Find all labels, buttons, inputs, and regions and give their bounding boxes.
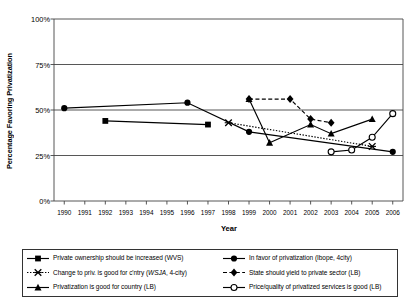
x-axis-tick-label: 1998: [221, 209, 235, 216]
series-group: [246, 95, 335, 127]
series-group: [102, 118, 210, 127]
chart-legend: Private ownership should be increased (W…: [22, 249, 398, 297]
series-group: [328, 111, 396, 155]
x-axis-tick-label: 1994: [139, 209, 153, 216]
series-marker: [231, 285, 237, 291]
series-marker: [369, 134, 375, 140]
series-marker: [246, 129, 252, 135]
series-line: [331, 114, 393, 152]
series-marker: [184, 100, 190, 106]
legend-item: State should yield to private sector (LB…: [221, 267, 401, 278]
x-axis-tick-label: 1992: [98, 209, 112, 216]
legend-label: Privatization is good for country (LB): [53, 284, 156, 291]
series-line: [105, 121, 208, 125]
legend-label: State should yield to private sector (LB…: [249, 270, 360, 277]
legend-label: Price/quality of privatized services is …: [249, 284, 381, 291]
series-marker: [307, 121, 314, 128]
series-marker: [369, 115, 376, 122]
legend-symbol-filled-diamond-icon: [221, 267, 247, 278]
privatization-line-chart: Percentage Favoring Privatization 0%25%5…: [0, 0, 420, 304]
legend-symbol-filled-triangle-icon: [25, 282, 51, 293]
legend-label: Private ownership should be increased (W…: [53, 255, 183, 262]
series-group: [225, 119, 376, 149]
x-axis-tick-label: 2005: [365, 209, 379, 216]
legend-item: In favor of privatization (Ibope, 4city): [221, 253, 401, 264]
x-axis-tick-label: 2001: [283, 209, 297, 216]
series-marker: [61, 105, 67, 111]
series-marker: [390, 111, 396, 117]
y-axis-tick-label: 100%: [31, 15, 50, 24]
y-axis-tick-label: 0%: [39, 197, 50, 206]
legend-label: In favor of privatization (Ibope, 4city): [249, 255, 352, 262]
x-axis-tick-labels: 1990199119921993199419951996199719981999…: [0, 209, 420, 223]
x-axis-title: Year: [54, 224, 404, 233]
series-marker: [102, 118, 108, 124]
legend-symbol-filled-square-icon: [25, 253, 51, 264]
legend-symbol-open-circle-icon: [221, 282, 247, 293]
x-axis-tick-label: 2004: [345, 209, 359, 216]
legend-item: Change to priv. is good for c'ntry (WSJA…: [25, 267, 221, 278]
series-marker: [266, 139, 273, 146]
x-axis-tick-label: 2002: [304, 209, 318, 216]
series-marker: [231, 255, 237, 261]
x-axis-tick-label: 1993: [119, 209, 133, 216]
y-axis-tick-labels: 0%25%50%75%100%: [14, 0, 50, 220]
series-marker: [205, 122, 211, 128]
legend-symbol-filled-circle-icon: [221, 253, 247, 264]
series-marker: [231, 269, 238, 277]
series-marker: [390, 149, 396, 155]
series-marker: [287, 95, 294, 103]
x-axis-tick-label: 1991: [78, 209, 92, 216]
legend-label: Change to priv. is good for c'ntry (WSJA…: [53, 270, 187, 277]
x-axis-tick-label: 2006: [386, 209, 400, 216]
series-marker: [328, 149, 334, 155]
x-axis-tick-label: 2003: [324, 209, 338, 216]
x-axis-tick-label: 2000: [262, 209, 276, 216]
y-axis-tick-label: 25%: [35, 151, 50, 160]
x-axis-tick-label: 1990: [57, 209, 71, 216]
y-axis-tick-label: 50%: [35, 106, 50, 115]
x-axis-tick-label: 1997: [201, 209, 215, 216]
x-axis-tick-label: 1995: [160, 209, 174, 216]
legend-symbol-cross-x-icon: [25, 267, 51, 278]
series-marker: [349, 147, 355, 153]
legend-item: Private ownership should be increased (W…: [25, 253, 221, 264]
y-axis-tick-label: 75%: [35, 60, 50, 69]
x-axis-tick-label: 1999: [242, 209, 256, 216]
series-marker: [328, 119, 335, 127]
series-marker: [35, 255, 41, 261]
legend-item: Privatization is good for country (LB): [25, 282, 221, 293]
legend-item: Price/quality of privatized services is …: [221, 282, 401, 293]
x-axis-tick-label: 1996: [180, 209, 194, 216]
series-group: [61, 100, 396, 155]
